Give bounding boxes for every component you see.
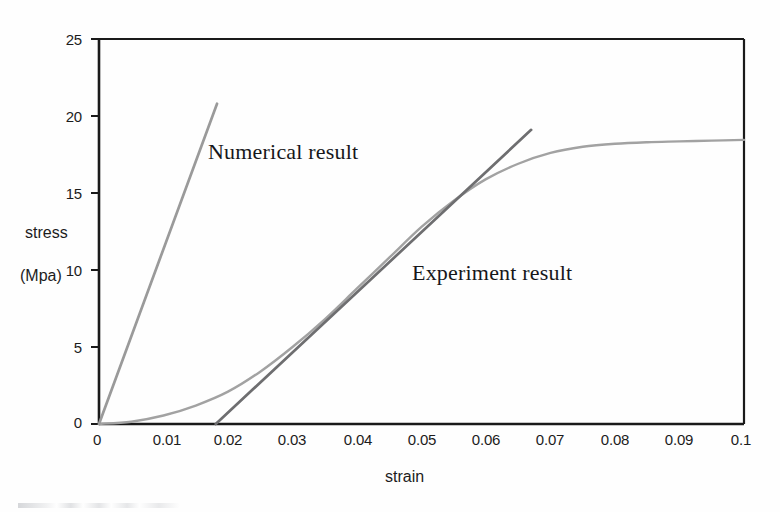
x-tick-label-0-1: 0.1 — [731, 431, 751, 448]
x-tick-label-0-02: 0.02 — [214, 431, 242, 448]
y-tick-label-5: 5 — [44, 339, 82, 356]
y-axis-title-stress: stress — [25, 224, 68, 242]
series-numerical-line — [99, 104, 217, 424]
x-tick-label-0-06: 0.06 — [472, 431, 500, 448]
series-annotation-numerical-result: Numerical result — [208, 139, 358, 165]
chart-plot-svg — [0, 0, 780, 512]
y-axis-title-unit-mpa: (Mpa) — [20, 267, 62, 285]
x-tick-label-0-01: 0.01 — [153, 431, 181, 448]
y-tick-label-15: 15 — [44, 185, 82, 202]
x-tick-label-0-08: 0.08 — [601, 431, 629, 448]
x-tick-label-0-05: 0.05 — [408, 431, 436, 448]
x-tick-label-0-09: 0.09 — [665, 431, 693, 448]
x-tick-label-0-04: 0.04 — [344, 431, 372, 448]
x-tick-label-0-03: 0.03 — [278, 431, 306, 448]
x-tick-label-0-07: 0.07 — [536, 431, 564, 448]
y-tick-label-0: 0 — [44, 414, 82, 431]
x-axis-title-strain: strain — [385, 468, 424, 486]
y-tick-label-20: 20 — [44, 108, 82, 125]
x-tick-label-0: 0 — [93, 431, 101, 448]
stress-strain-chart-figure: 25 20 15 10 5 0 0 0.01 0.02 0.03 0.04 0.… — [0, 0, 780, 512]
y-tick-label-25: 25 — [44, 31, 82, 48]
series-annotation-experiment-result: Experiment result — [412, 260, 572, 286]
